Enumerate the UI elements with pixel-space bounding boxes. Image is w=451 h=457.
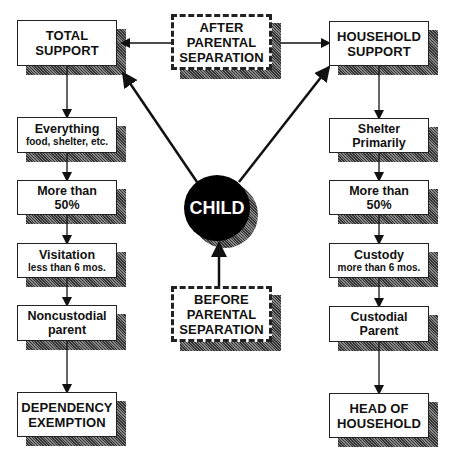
after-line3: SEPARATION	[179, 50, 263, 65]
everything-main: Everything	[35, 122, 100, 136]
custody-sub: more than 6 mos.	[338, 262, 421, 274]
total-support-line2: SUPPORT	[35, 43, 99, 58]
child-label: CHILD	[190, 198, 245, 219]
right-more-than-line1: More than	[349, 184, 409, 198]
before-separation-box: BEFORE PARENTAL SEPARATION	[171, 286, 272, 342]
right-more-than-50-box: More than 50%	[329, 180, 429, 215]
total-support-line1: TOTAL	[46, 28, 89, 43]
right-more-than-line2: 50%	[366, 198, 391, 212]
household-support-box: HOUSEHOLD SUPPORT	[329, 21, 429, 66]
after-line1: AFTER	[200, 20, 244, 35]
shelter-line2: Primarily	[352, 136, 406, 150]
after-line2: PARENTAL	[187, 35, 257, 50]
custody-main: Custody	[354, 248, 404, 262]
shelter-primarily-box: Shelter Primarily	[329, 118, 429, 153]
head-of-household-line1: HEAD OF	[349, 401, 408, 416]
custodial-line1: Custodial	[351, 310, 408, 324]
dependency-line2: EXEMPTION	[28, 415, 105, 430]
dependency-line1: DEPENDENCY	[21, 400, 112, 415]
visitation-main: Visitation	[39, 248, 95, 262]
everything-box: Everything food, shelter, etc.	[17, 117, 117, 153]
visitation-box: Visitation less than 6 mos.	[17, 243, 117, 278]
everything-sub: food, shelter, etc.	[26, 136, 108, 148]
visitation-sub: less than 6 mos.	[28, 262, 106, 274]
household-support-line2: SUPPORT	[347, 44, 411, 59]
noncustodial-parent-box: Noncustodial parent	[17, 305, 117, 341]
total-support-box: TOTAL SUPPORT	[17, 20, 117, 66]
dependency-exemption-box: DEPENDENCY EXEMPTION	[17, 392, 117, 437]
noncustodial-line1: Noncustodial	[27, 309, 106, 323]
before-line2: PARENTAL	[187, 307, 257, 322]
left-more-than-line1: More than	[37, 184, 97, 198]
household-support-line1: HOUSEHOLD	[337, 29, 421, 44]
left-more-than-50-box: More than 50%	[17, 180, 117, 215]
after-separation-box: AFTER PARENTAL SEPARATION	[171, 14, 272, 70]
noncustodial-line2: parent	[48, 323, 86, 337]
custody-box: Custody more than 6 mos.	[329, 243, 429, 278]
left-more-than-line2: 50%	[54, 198, 79, 212]
head-of-household-line2: HOUSEHOLD	[337, 416, 421, 431]
shelter-line1: Shelter	[358, 122, 400, 136]
before-line1: BEFORE	[194, 292, 249, 307]
before-line3: SEPARATION	[179, 322, 263, 337]
head-of-household-box: HEAD OF HOUSEHOLD	[329, 393, 429, 438]
custodial-line2: Parent	[360, 324, 399, 338]
custodial-parent-box: Custodial Parent	[329, 306, 429, 342]
child-circle: CHILD	[184, 175, 250, 241]
